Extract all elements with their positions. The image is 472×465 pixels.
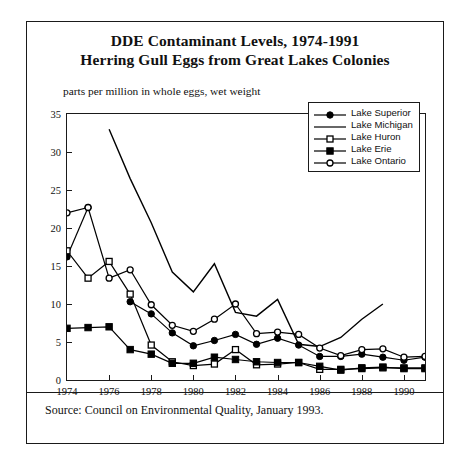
data-point-marker — [169, 322, 175, 328]
data-point-marker — [67, 248, 70, 254]
data-point-marker — [190, 328, 196, 334]
series-line — [67, 251, 425, 370]
legend-filled-square-icon — [313, 143, 347, 155]
legend-open-circle-icon — [313, 155, 347, 167]
data-point-marker — [211, 361, 217, 367]
series-lake-ontario — [67, 204, 425, 360]
data-point-marker — [232, 301, 238, 307]
legend-open-square-icon — [313, 131, 347, 143]
data-point-marker — [317, 345, 323, 351]
data-point-marker — [190, 343, 196, 349]
chart-figure: DDE Contaminant Levels, 1974-1991 Herrin… — [26, 21, 444, 444]
data-point-marker — [169, 330, 175, 336]
data-point-marker — [169, 360, 175, 366]
data-point-marker — [338, 367, 344, 373]
data-point-marker — [253, 359, 259, 365]
data-point-marker — [106, 324, 112, 330]
data-point-marker — [211, 316, 217, 322]
legend-item[interactable]: Lake Michigan — [313, 119, 413, 131]
footer-divider — [27, 392, 443, 393]
data-point-marker — [327, 148, 333, 154]
data-point-marker — [327, 160, 333, 166]
data-point-marker — [422, 353, 425, 359]
chart-title-line-1: DDE Contaminant Levels, 1974-1991 — [27, 31, 443, 50]
data-point-marker — [67, 325, 70, 331]
series-lake-erie — [67, 324, 425, 374]
chart-title-line-2: Herring Gull Eggs from Great Lakes Colon… — [27, 50, 443, 69]
data-point-marker — [127, 267, 133, 273]
legend-item-label: Lake Superior — [351, 107, 411, 119]
data-point-marker — [359, 365, 365, 371]
data-point-marker — [380, 364, 386, 370]
legend-item-label: Lake Huron — [351, 131, 401, 143]
data-point-marker — [67, 210, 70, 216]
data-point-marker — [148, 302, 154, 308]
data-point-marker — [85, 275, 91, 281]
data-point-marker — [327, 112, 333, 118]
data-point-marker — [296, 331, 302, 337]
series-lake-huron — [67, 248, 425, 373]
y-axis-tick-label: 20 — [51, 223, 62, 234]
data-point-marker — [317, 353, 323, 359]
data-point-marker — [359, 347, 365, 353]
data-point-marker — [232, 331, 238, 337]
legend-item[interactable]: Lake Ontario — [313, 155, 413, 167]
y-axis-tick-label: 0 — [56, 375, 61, 386]
legend-none-icon — [313, 119, 347, 131]
data-point-marker — [106, 275, 112, 281]
legend-item[interactable]: Lake Erie — [313, 143, 413, 155]
y-axis-tick-label: 35 — [51, 109, 62, 120]
data-point-marker — [274, 335, 280, 341]
data-point-marker — [127, 291, 133, 297]
data-point-marker — [211, 354, 217, 360]
data-point-marker — [211, 337, 217, 343]
data-point-marker — [106, 258, 112, 264]
data-point-marker — [85, 204, 91, 210]
data-point-marker — [190, 360, 196, 366]
chart-legend: Lake SuperiorLake MichiganLake HuronLake… — [308, 102, 420, 172]
data-point-marker — [327, 136, 333, 142]
data-point-marker — [380, 354, 386, 360]
legend-item[interactable]: Lake Huron — [313, 131, 413, 143]
legend-item-label: Lake Michigan — [351, 119, 413, 131]
y-axis-tick-label: 10 — [51, 299, 62, 310]
data-point-marker — [148, 311, 154, 317]
data-point-marker — [127, 346, 133, 352]
data-point-marker — [148, 351, 154, 357]
data-point-marker — [401, 365, 407, 371]
source-caption: Source: Council on Environmental Quality… — [45, 403, 324, 418]
axis-units-note: parts per million in whole eggs, wet wei… — [63, 85, 260, 97]
data-point-marker — [253, 341, 259, 347]
y-axis-tick-label: 30 — [51, 147, 62, 158]
legend-item[interactable]: Lake Superior — [313, 107, 413, 119]
data-point-marker — [274, 359, 280, 365]
data-point-marker — [380, 346, 386, 352]
data-point-marker — [295, 359, 301, 365]
series-line — [67, 207, 425, 357]
data-point-marker — [401, 354, 407, 360]
data-point-marker — [232, 356, 238, 362]
data-point-marker — [275, 329, 281, 335]
y-axis-tick-label: 5 — [56, 337, 61, 348]
data-point-marker — [338, 353, 344, 359]
data-point-marker — [422, 365, 425, 371]
chart-title-block: DDE Contaminant Levels, 1974-1991 Herrin… — [27, 22, 443, 69]
y-axis-labels: 05101520253035 — [27, 22, 66, 382]
legend-item-label: Lake Ontario — [351, 155, 406, 167]
data-point-marker — [317, 363, 323, 369]
data-point-marker — [254, 331, 260, 337]
y-axis-tick-label: 25 — [51, 185, 62, 196]
legend-item-label: Lake Erie — [351, 143, 392, 155]
data-point-marker — [232, 347, 238, 353]
legend-filled-circle-icon — [313, 107, 347, 119]
data-point-marker — [148, 342, 154, 348]
series-line — [67, 327, 425, 370]
y-axis-tick-label: 15 — [51, 261, 62, 272]
data-point-marker — [85, 324, 91, 330]
